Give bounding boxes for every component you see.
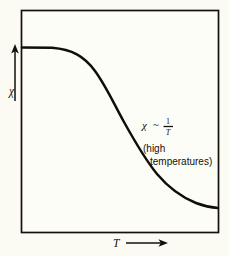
plot-svg: χ χ ~ 1 T (high temperatures) T: [0, 0, 229, 256]
y-axis-label: χ: [8, 85, 15, 98]
annotation-note-line-1: (high: [143, 143, 165, 154]
susceptibility-vs-temperature-figure: χ χ ~ 1 T (high temperatures) T: [0, 0, 229, 256]
x-axis-label: T: [113, 237, 121, 249]
annotation-fraction-numerator: 1: [166, 117, 170, 126]
annotation-fraction-denominator: T: [166, 128, 171, 137]
x-axis-arrow-icon: [126, 239, 168, 247]
annotation-note-line-2: temperatures): [150, 156, 212, 167]
annotation-relation: ~: [153, 118, 159, 130]
